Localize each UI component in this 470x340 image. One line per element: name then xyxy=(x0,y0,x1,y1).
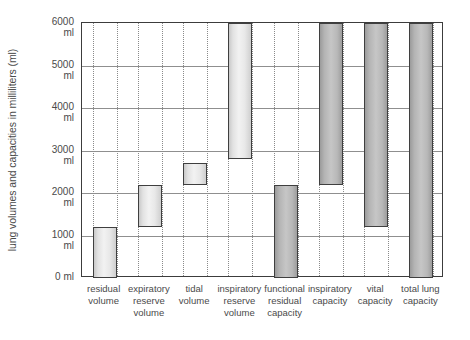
category-guide-line xyxy=(207,23,208,276)
x-label-line: reserve xyxy=(217,295,262,307)
x-label-vital-capacity: vitalcapacity xyxy=(353,283,398,307)
x-label-line: tidal xyxy=(172,283,217,295)
y-axis-title: lung volumes and capacities in millilite… xyxy=(0,0,24,300)
category-guide-line xyxy=(298,23,299,276)
y-tick-unit: ml xyxy=(28,155,74,166)
y-tick-label: 2000ml xyxy=(28,186,74,208)
y-tick-unit: ml xyxy=(28,112,74,123)
y-tick-label: 6000ml xyxy=(28,16,74,38)
y-tick-unit: ml xyxy=(28,27,74,38)
x-label-line: capacity xyxy=(398,295,443,307)
y-tick-unit: ml xyxy=(28,240,74,251)
bar-tidal-volume xyxy=(183,163,207,184)
bar-expiratory-reserve-volume xyxy=(138,185,162,228)
x-label-expiratory-reserve-volume: expiratoryreservevolume xyxy=(126,283,171,319)
y-tick-value: 4000 xyxy=(28,101,74,112)
x-label-line: volume xyxy=(126,307,171,319)
bar-functional-residual-capacity xyxy=(274,185,298,279)
category-guide-line xyxy=(183,23,184,276)
y-tick-unit: ml xyxy=(63,271,74,282)
x-label-inspiratory-reserve-volume: inspiratoryreservevolume xyxy=(217,283,262,319)
x-label-line: inspiratory xyxy=(217,283,262,295)
y-tick-value: 2000 xyxy=(28,186,74,197)
x-label-line: total lung xyxy=(398,283,443,295)
x-label-line: vital xyxy=(353,283,398,295)
plot-inner xyxy=(82,23,442,276)
x-label-line: capacity xyxy=(307,295,352,307)
category-guide-line xyxy=(343,23,344,276)
x-label-line: inspiratory xyxy=(307,283,352,295)
category-guide-line xyxy=(117,23,118,276)
y-axis-title-text: lung volumes and capacities in millilite… xyxy=(6,49,18,251)
category-guide-line xyxy=(252,23,253,276)
x-label-functional-residual-capacity: functionalresidualcapacity xyxy=(262,283,307,319)
x-label-line: expiratory xyxy=(126,283,171,295)
y-tick-value: 1000 xyxy=(28,229,74,240)
plot-area xyxy=(81,22,443,277)
x-label-line: volume xyxy=(217,307,262,319)
x-label-residual-volume: residualvolume xyxy=(81,283,126,307)
y-tick-value: 5000 xyxy=(28,59,74,70)
bar-inspiratory-reserve-volume xyxy=(228,23,252,159)
category-guide-line xyxy=(162,23,163,276)
x-label-line: residual xyxy=(81,283,126,295)
y-tick-value: 3000 xyxy=(28,144,74,155)
y-tick-unit: ml xyxy=(28,70,74,81)
y-tick-label: 1000ml xyxy=(28,229,74,251)
x-label-line: functional xyxy=(262,283,307,295)
y-tick-unit: ml xyxy=(28,197,74,208)
y-tick-label: 3000ml xyxy=(28,144,74,166)
y-tick-label: 5000ml xyxy=(28,59,74,81)
category-guide-line xyxy=(388,23,389,276)
x-label-line: reserve xyxy=(126,295,171,307)
x-label-line: volume xyxy=(172,295,217,307)
x-label-inspiratory-capacity: inspiratorycapacity xyxy=(307,283,352,307)
bar-residual-volume xyxy=(93,227,117,278)
bar-vital-capacity xyxy=(364,23,388,227)
category-guide-line xyxy=(433,23,434,276)
x-label-tidal-volume: tidalvolume xyxy=(172,283,217,307)
category-guide-line xyxy=(138,23,139,276)
x-label-line: capacity xyxy=(353,295,398,307)
x-label-total-lung-capacity: total lungcapacity xyxy=(398,283,443,307)
y-tick-label: 4000ml xyxy=(28,101,74,123)
x-label-line: volume xyxy=(81,295,126,307)
bar-inspiratory-capacity xyxy=(319,23,343,185)
y-tick-label: 0 ml xyxy=(28,271,74,282)
bar-total-lung-capacity xyxy=(409,23,433,278)
x-label-line: capacity xyxy=(262,307,307,319)
y-tick-value: 6000 xyxy=(28,16,74,27)
x-label-line: residual xyxy=(262,295,307,307)
